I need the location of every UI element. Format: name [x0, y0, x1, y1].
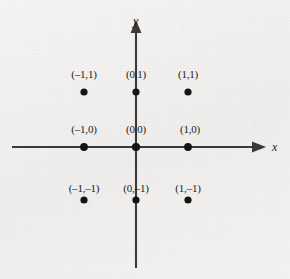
y-axis-label: y: [133, 15, 138, 27]
point-label-0-1: (0,1): [126, 69, 146, 80]
point-label-neg1-neg1: (–1,–1): [69, 183, 100, 194]
point-label-neg1-1: (–1,1): [71, 69, 96, 80]
data-point: [184, 143, 192, 151]
data-point: [132, 143, 140, 151]
point-label-1-0: (1,0): [180, 124, 200, 135]
lattice-points-figure: (–1,1) (0,1) (1,1) (–1,0) (0,0) (1,0) (–…: [0, 0, 290, 279]
data-point: [80, 88, 87, 95]
x-axis-arrowhead: [252, 142, 266, 153]
point-label-0-neg1: (0,–1): [123, 183, 148, 194]
coordinate-plane: [0, 0, 290, 279]
data-point: [184, 196, 191, 203]
data-point: [184, 88, 191, 95]
point-label-1-1: (1,1): [178, 69, 198, 80]
data-point: [80, 196, 87, 203]
point-label-1-neg1: (1,–1): [175, 183, 200, 194]
point-label-0-0: (0,0): [126, 124, 146, 135]
data-point: [132, 196, 139, 203]
data-point: [80, 143, 88, 151]
point-label-neg1-0: (–1,0): [71, 124, 96, 135]
data-point: [132, 88, 139, 95]
x-axis-label: x: [272, 141, 277, 153]
